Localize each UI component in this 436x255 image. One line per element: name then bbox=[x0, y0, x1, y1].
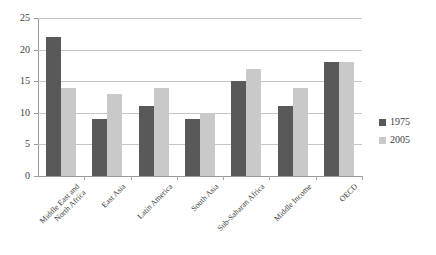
bar bbox=[246, 69, 261, 176]
bar bbox=[154, 88, 169, 176]
bar bbox=[324, 62, 339, 176]
category-axis-tick bbox=[269, 176, 270, 180]
legend-swatch-1975 bbox=[379, 119, 386, 126]
category-axis-tick bbox=[223, 176, 224, 180]
value-axis-tick-label: 25 bbox=[4, 13, 30, 23]
bar-chart: 0510152025 Middle East and North AfricaE… bbox=[0, 0, 436, 255]
value-axis-tick-label: 15 bbox=[4, 76, 30, 86]
value-axis-tick-label: 0 bbox=[4, 171, 30, 181]
category-axis-label: Middle East and North Africa bbox=[0, 182, 88, 255]
legend-swatch-2005 bbox=[379, 137, 386, 144]
axis-baseline bbox=[38, 176, 362, 177]
legend-item-label: 2005 bbox=[390, 135, 410, 145]
legend-item: 1975 bbox=[379, 113, 435, 131]
legend-item-label: 1975 bbox=[390, 117, 410, 127]
bar bbox=[339, 62, 354, 176]
category-axis-tick bbox=[177, 176, 178, 180]
plot-area bbox=[38, 18, 362, 176]
category-axis-tick bbox=[131, 176, 132, 180]
gridline bbox=[38, 18, 362, 19]
bar bbox=[231, 81, 246, 176]
value-axis-tick-label: 5 bbox=[4, 139, 30, 149]
chart-legend: 19752005 bbox=[379, 113, 435, 149]
bar bbox=[139, 106, 154, 176]
legend-item: 2005 bbox=[379, 131, 435, 149]
bar bbox=[107, 94, 122, 176]
bar bbox=[92, 119, 107, 176]
bar bbox=[61, 88, 76, 176]
category-axis-tick bbox=[84, 176, 85, 180]
value-axis-tick-label: 10 bbox=[4, 108, 30, 118]
bar bbox=[278, 106, 293, 176]
bar bbox=[293, 88, 308, 176]
bar bbox=[46, 37, 61, 176]
bar bbox=[200, 113, 215, 176]
value-axis-tick-label: 20 bbox=[4, 45, 30, 55]
bar bbox=[185, 119, 200, 176]
category-axis-tick bbox=[316, 176, 317, 180]
gridline bbox=[38, 50, 362, 51]
gridline bbox=[38, 81, 362, 82]
category-axis-tick bbox=[362, 176, 363, 180]
